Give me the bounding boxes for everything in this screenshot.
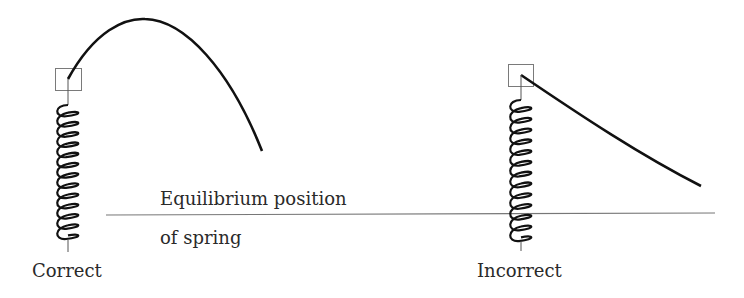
correct-spring-system: [56, 19, 263, 252]
incorrect-spring-system: [509, 65, 702, 252]
diagram-canvas: [0, 0, 744, 298]
equilibrium-label-2: of spring: [160, 229, 241, 247]
equilibrium-line: [106, 213, 715, 215]
spring-coil: [510, 100, 531, 241]
equilibrium-label: Equilibrium position: [160, 190, 347, 208]
incorrect-caption: Incorrect: [477, 262, 562, 280]
correct-caption: Correct: [32, 262, 102, 280]
trajectory-curve: [521, 75, 701, 186]
trajectory-curve: [68, 19, 262, 151]
spring-coil: [57, 105, 78, 239]
